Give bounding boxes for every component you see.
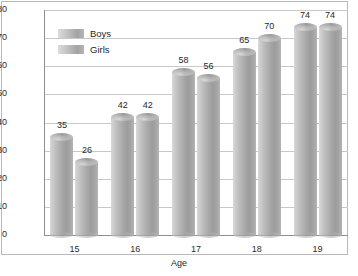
bar-girls-18 bbox=[258, 38, 281, 235]
x-tick-label: 18 bbox=[232, 244, 282, 254]
bar-value-label: 26 bbox=[72, 145, 102, 155]
bar-cap-highlight bbox=[50, 133, 73, 141]
x-tick-label: 17 bbox=[171, 244, 221, 254]
bar-base bbox=[136, 232, 159, 238]
y-tick-label: 40 bbox=[0, 118, 7, 127]
x-tick-label: 16 bbox=[110, 244, 160, 254]
y-tick-label: 20 bbox=[0, 174, 7, 183]
bar-base bbox=[233, 232, 256, 238]
bar-base bbox=[111, 232, 134, 238]
bar-value-label: 42 bbox=[133, 100, 163, 110]
y-tick-label: 30 bbox=[0, 146, 7, 155]
y-tick-label: 50 bbox=[0, 89, 7, 98]
x-tick-label: 19 bbox=[293, 244, 343, 254]
bar-boys-15 bbox=[50, 137, 73, 235]
legend-label: Girls bbox=[90, 44, 110, 55]
bar-cap-highlight bbox=[258, 34, 281, 42]
y-tick-label: 0 bbox=[0, 230, 7, 239]
bar-girls-19 bbox=[319, 27, 342, 235]
bar-value-label: 74 bbox=[315, 10, 345, 20]
legend-swatch-icon bbox=[58, 45, 84, 54]
bar-cap-highlight bbox=[172, 68, 195, 76]
bar-chart: 01020304050607080 Percentage 35264242585… bbox=[0, 0, 358, 276]
bar-value-label: 35 bbox=[47, 120, 77, 130]
bar-cap-highlight bbox=[75, 158, 98, 166]
bar-cap-highlight bbox=[111, 113, 134, 121]
bar-value-label: 70 bbox=[254, 21, 284, 31]
bar-base bbox=[197, 232, 220, 238]
y-tick-label: 60 bbox=[0, 61, 7, 70]
legend-swatch-icon bbox=[58, 29, 84, 38]
legend: BoysGirls bbox=[58, 27, 111, 59]
bar-cap-highlight bbox=[197, 74, 220, 82]
bar-base bbox=[294, 232, 317, 238]
bar-girls-15 bbox=[75, 162, 98, 235]
y-tick-label: 10 bbox=[0, 202, 7, 211]
legend-item-girls: Girls bbox=[58, 43, 111, 56]
bar-boys-19 bbox=[294, 27, 317, 235]
bar-boys-16 bbox=[111, 117, 134, 235]
bar-boys-18 bbox=[233, 52, 256, 235]
bar-cap-highlight bbox=[319, 23, 342, 31]
bar-value-label: 65 bbox=[229, 35, 259, 45]
bar-value-label: 56 bbox=[194, 61, 224, 71]
legend-label: Boys bbox=[90, 28, 111, 39]
bar-cap-highlight bbox=[294, 23, 317, 31]
x-tick-label: 15 bbox=[49, 244, 99, 254]
bar-boys-17 bbox=[172, 72, 195, 235]
x-axis-label: Age bbox=[0, 258, 358, 268]
bar-base bbox=[319, 232, 342, 238]
legend-item-boys: Boys bbox=[58, 27, 111, 40]
bar-girls-16 bbox=[136, 117, 159, 235]
bar-cap-highlight bbox=[136, 113, 159, 121]
bar-cap-highlight bbox=[233, 48, 256, 56]
bar-base bbox=[258, 232, 281, 238]
y-tick-label: 70 bbox=[0, 33, 7, 42]
bar-base bbox=[172, 232, 195, 238]
bar-girls-17 bbox=[197, 78, 220, 236]
y-tick-label: 80 bbox=[0, 5, 7, 14]
